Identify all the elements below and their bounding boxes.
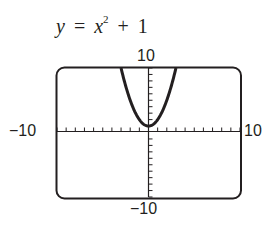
graph-window <box>0 0 275 230</box>
axes <box>57 68 240 197</box>
